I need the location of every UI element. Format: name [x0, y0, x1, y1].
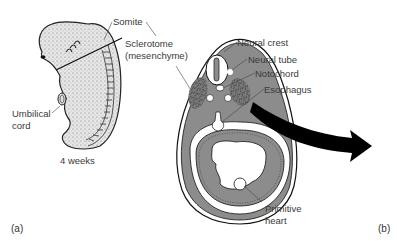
embryo-illustration — [39, 22, 122, 149]
panel-label-b: (b) — [378, 223, 390, 234]
label-notochord: Notochord — [255, 68, 299, 79]
label-neural-tube: Neural tube — [248, 54, 297, 65]
label-umbilical: Umbilical — [12, 108, 51, 119]
label-neural-crest: Neural crest — [237, 37, 288, 48]
label-primitive: Primitive — [265, 203, 301, 214]
caption-4-weeks: 4 weeks — [60, 155, 95, 166]
label-heart: heart — [265, 215, 287, 226]
label-sclerotome-sub: (mesenchyme) — [125, 50, 188, 61]
label-sclerotome: Sclerotome — [125, 38, 173, 49]
embryo-diagram — [0, 0, 397, 241]
label-cord: cord — [12, 120, 30, 131]
label-somite: Somite — [113, 16, 143, 27]
label-esophagus: Esophagus — [264, 84, 312, 95]
panel-label-a: (a) — [11, 223, 23, 234]
